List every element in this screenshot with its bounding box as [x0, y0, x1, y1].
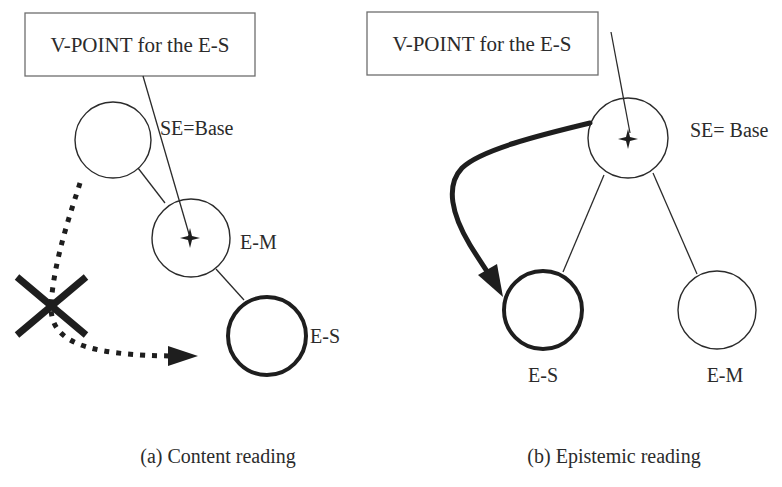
edge-em-es — [216, 269, 244, 300]
node-es-a — [228, 297, 306, 375]
vpoint-star-icon — [180, 228, 200, 248]
vpoint-pointer-line — [611, 32, 630, 133]
diagram-canvas: V-POINT for the E-S SE=Base E-M E-S (a) … — [0, 0, 782, 487]
node-label-es: E-S — [310, 325, 340, 347]
node-em-b — [678, 271, 756, 349]
cross-block-icon — [17, 277, 86, 335]
vpoint-star-icon — [618, 129, 638, 149]
node-label-base: SE=Base — [160, 117, 234, 139]
node-label-em: E-M — [707, 364, 744, 386]
access-arrow-path — [452, 123, 590, 276]
blocked-dotted-path — [51, 183, 180, 356]
node-label-base: SE= Base — [690, 119, 769, 141]
dotted-path-arrowhead — [168, 346, 198, 366]
access-arrowhead-icon — [478, 264, 503, 297]
vpoint-box-label: V-POINT for the E-S — [50, 33, 229, 57]
vpoint-box-a: V-POINT for the E-S — [25, 13, 255, 76]
node-label-es: E-S — [528, 364, 558, 386]
vpoint-pointer-line — [143, 76, 189, 234]
edge-base-em — [138, 168, 165, 203]
panel-a: V-POINT for the E-S SE=Base E-M E-S (a) … — [17, 13, 340, 468]
panel-b: V-POINT for the E-S SE= Base E-S E-M (b)… — [367, 12, 769, 468]
caption-b: (b) Epistemic reading — [527, 445, 700, 468]
edge-base-es — [563, 175, 604, 272]
node-base-a — [75, 102, 151, 178]
node-es-b — [504, 271, 582, 349]
node-label-em: E-M — [240, 231, 277, 253]
vpoint-box-label: V-POINT for the E-S — [392, 32, 571, 56]
edge-base-em — [653, 173, 697, 274]
caption-a: (a) Content reading — [140, 445, 296, 468]
vpoint-box-b: V-POINT for the E-S — [367, 12, 598, 75]
